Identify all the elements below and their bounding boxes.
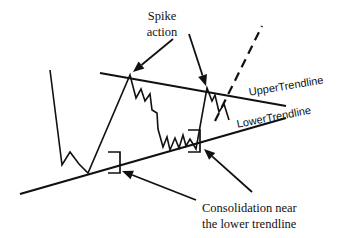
spike-label-line1: Spike bbox=[148, 9, 177, 23]
consolidation-label-line1: Consolidation near bbox=[202, 201, 298, 215]
chart-pattern-figure: Spike action UpperTrendline LowerTrendli… bbox=[0, 0, 348, 238]
consolidation-label-line2: the lower trendline bbox=[202, 217, 297, 231]
spike-label-line2: action bbox=[147, 25, 178, 39]
